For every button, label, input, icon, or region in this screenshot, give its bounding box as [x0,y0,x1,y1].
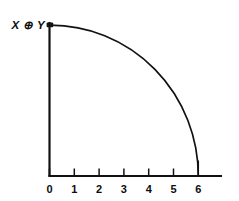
plot-canvas: X ⊕ Y 0 1 2 3 4 5 6 [0,0,239,201]
x-tick-label-5: 5 [170,183,176,195]
x-tick-label-2: 2 [96,183,102,195]
x-tick-label-4: 4 [146,183,153,195]
x-tick-label-1: 1 [71,183,77,195]
x-axis-ticks [50,161,199,177]
data-curve [50,25,198,176]
x-tick-label-3: 3 [121,183,127,195]
chart-figure: X ⊕ Y 0 1 2 3 4 5 6 [0,0,239,201]
x-tick-label-6: 6 [195,183,201,195]
y-axis-label: X ⊕ Y [10,19,45,31]
curve-origin-marker [47,23,54,28]
x-tick-label-0: 0 [46,183,52,195]
x-axis-tick-labels: 0 1 2 3 4 5 6 [46,183,201,195]
